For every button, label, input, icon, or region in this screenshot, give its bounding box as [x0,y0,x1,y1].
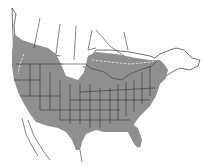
north-america-map [0,0,205,166]
range-map [0,0,205,166]
florida [132,124,142,148]
